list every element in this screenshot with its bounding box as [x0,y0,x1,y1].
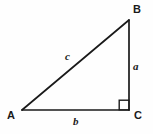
right-angle-square-icon [119,100,129,110]
vertex-label-a: A [7,110,15,121]
triangle-graphic [0,0,153,134]
side-label-b: b [73,116,79,127]
right-triangle-figure: A B C a b c [0,0,153,134]
side-c-hypotenuse-line [22,20,129,110]
vertex-label-b: B [133,4,141,15]
side-label-c: c [65,51,70,62]
side-label-a: a [133,61,139,72]
vertex-label-c: C [134,110,142,121]
